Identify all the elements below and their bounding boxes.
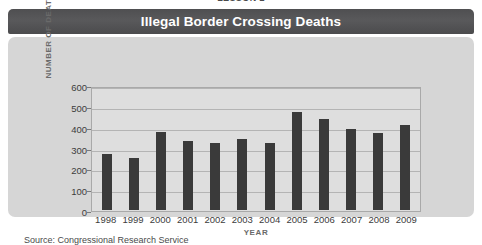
page-title: Illegal Border Crossing Deaths xyxy=(141,14,341,29)
bar-2005 xyxy=(292,112,302,210)
bar-slot xyxy=(175,89,202,210)
bar-series xyxy=(93,89,419,210)
bar-1998 xyxy=(102,154,112,210)
x-tick-label-1999: 1999 xyxy=(119,214,146,225)
bar-slot xyxy=(147,89,174,210)
x-tick-label-2004: 2004 xyxy=(256,214,283,225)
bar-slot xyxy=(283,89,310,210)
x-tick-label-2002: 2002 xyxy=(201,214,228,225)
chart-card: NUMBER OF DEATHS 0100200300400500600 199… xyxy=(8,37,474,217)
bar-2001 xyxy=(183,141,193,210)
bar-slot xyxy=(93,89,120,210)
bar-slot xyxy=(202,89,229,210)
bar-slot xyxy=(310,89,337,210)
x-tick-label-2001: 2001 xyxy=(174,214,201,225)
y-axis-title: NUMBER OF DEATHS xyxy=(44,0,53,93)
x-tick-label-2000: 2000 xyxy=(147,214,174,225)
x-tick-label-2007: 2007 xyxy=(338,214,365,225)
y-tick-label: 200 xyxy=(71,165,87,176)
bar-slot xyxy=(229,89,256,210)
y-tick-label: 300 xyxy=(71,144,87,155)
y-tick-label: 500 xyxy=(71,102,87,113)
bar-2003 xyxy=(237,139,247,210)
y-tick-mark xyxy=(87,129,91,130)
y-tick-mark xyxy=(87,108,91,109)
bar-2009 xyxy=(400,125,410,210)
bar-slot xyxy=(365,89,392,210)
x-tick-label-2009: 2009 xyxy=(393,214,420,225)
y-tick-mark xyxy=(87,150,91,151)
x-tick-label-2006: 2006 xyxy=(311,214,338,225)
x-axis-tick-labels: 1998199920002001200220032004200520062007… xyxy=(92,214,420,225)
x-tick-label-1998: 1998 xyxy=(92,214,119,225)
plot-wrapper: 0100200300400500600 xyxy=(91,87,421,212)
x-tick-label-2008: 2008 xyxy=(365,214,392,225)
lesson-header: LESSON 2 xyxy=(0,0,482,3)
bar-2004 xyxy=(265,143,275,210)
y-tick-mark xyxy=(87,212,91,213)
bar-2000 xyxy=(156,132,166,210)
bar-2007 xyxy=(346,129,356,210)
y-tick-label: 100 xyxy=(71,186,87,197)
x-tick-label-2003: 2003 xyxy=(229,214,256,225)
bar-slot xyxy=(120,89,147,210)
bar-slot xyxy=(338,89,365,210)
y-axis-ticks: 0100200300400500600 xyxy=(59,87,87,212)
chart-title-bar: Illegal Border Crossing Deaths xyxy=(8,9,474,34)
source-note: Source: Congressional Research Service xyxy=(24,235,189,245)
bar-slot xyxy=(392,89,419,210)
bar-slot xyxy=(256,89,283,210)
plot-area xyxy=(91,87,421,212)
y-tick-mark xyxy=(87,170,91,171)
y-tick-label: 400 xyxy=(71,123,87,134)
bar-1999 xyxy=(129,158,139,210)
bar-2002 xyxy=(210,143,220,210)
y-tick-mark xyxy=(87,191,91,192)
bar-2006 xyxy=(319,119,329,210)
bar-2008 xyxy=(373,133,383,210)
x-tick-label-2005: 2005 xyxy=(283,214,310,225)
y-tick-mark xyxy=(87,87,91,88)
y-tick-label: 600 xyxy=(71,82,87,93)
